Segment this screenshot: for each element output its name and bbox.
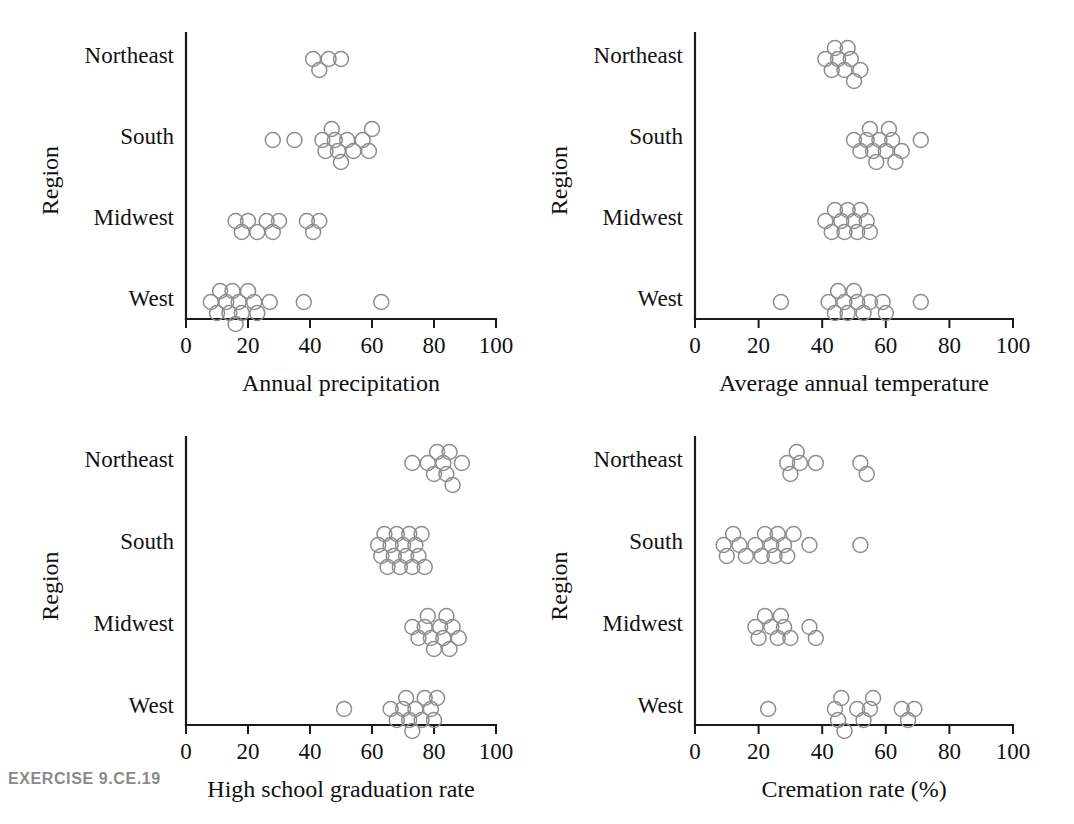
data-point	[773, 609, 788, 624]
x-tick-label: 100	[479, 333, 514, 358]
x-axis-title: High school graduation rate	[207, 776, 474, 802]
data-point	[451, 631, 466, 646]
data-point	[361, 144, 376, 159]
data-point	[802, 620, 817, 635]
data-point	[789, 445, 804, 460]
data-point	[859, 467, 874, 482]
y-axis-title: Region	[546, 146, 572, 215]
data-point	[808, 456, 823, 471]
x-tick-label: 100	[996, 739, 1031, 764]
panel-cremation-rate: 020406080100Cremation rate (%)RegionNort…	[510, 412, 1074, 792]
data-point	[334, 155, 349, 170]
data-point	[423, 702, 438, 717]
data-point	[847, 284, 862, 299]
y-axis-title: Region	[37, 146, 63, 215]
y-category-label: Midwest	[94, 205, 175, 230]
data-point	[853, 538, 868, 553]
data-point	[831, 284, 846, 299]
data-point	[241, 284, 256, 299]
data-point	[802, 538, 817, 553]
x-tick-label: 0	[180, 333, 192, 358]
data-point	[751, 631, 766, 646]
data-point	[306, 225, 321, 240]
data-point	[265, 225, 280, 240]
x-tick-label: 20	[747, 739, 770, 764]
y-category-label: Northeast	[85, 447, 175, 472]
data-point	[287, 133, 302, 148]
data-point	[913, 133, 928, 148]
data-point	[761, 702, 776, 717]
panel-high-school-graduation-rate: 020406080100High school graduation rateR…	[0, 412, 537, 792]
x-tick-label: 100	[996, 333, 1031, 358]
data-point	[405, 456, 420, 471]
panel-average-annual-temperature: 020406080100Average annual temperatureRe…	[510, 0, 1074, 412]
x-tick-label: 20	[237, 739, 260, 764]
data-point	[726, 527, 741, 542]
data-point	[296, 295, 311, 310]
x-tick-label: 80	[423, 739, 446, 764]
x-tick-label: 60	[361, 739, 384, 764]
data-point	[337, 702, 352, 717]
x-tick-label: 40	[811, 333, 834, 358]
exercise-caption: EXERCISE 9.CE.19	[8, 770, 161, 788]
x-axis-title: Annual precipitation	[242, 370, 440, 396]
data-point	[834, 691, 849, 706]
panel-annual-precipitation: 020406080100Annual precipitationRegionNo…	[0, 0, 537, 412]
data-point	[420, 609, 435, 624]
data-point	[234, 225, 249, 240]
x-tick-label: 40	[811, 739, 834, 764]
x-tick-label: 80	[938, 739, 961, 764]
data-point	[365, 122, 380, 137]
data-point	[847, 74, 862, 89]
y-category-label: South	[120, 124, 174, 149]
data-point	[374, 295, 389, 310]
x-tick-label: 40	[299, 739, 322, 764]
x-tick-label: 0	[689, 333, 701, 358]
y-category-label: South	[629, 529, 683, 554]
x-axis-title: Cremation rate (%)	[761, 776, 946, 802]
data-point	[888, 155, 903, 170]
x-tick-label: 80	[423, 333, 446, 358]
x-tick-label: 20	[237, 333, 260, 358]
data-point	[757, 609, 772, 624]
y-category-label: South	[120, 529, 174, 554]
x-tick-label: 60	[361, 333, 384, 358]
data-point	[439, 609, 454, 624]
y-category-label: Midwest	[603, 205, 684, 230]
y-category-label: Midwest	[603, 611, 684, 636]
data-point	[732, 538, 747, 553]
y-category-label: Northeast	[85, 43, 175, 68]
data-point	[786, 527, 801, 542]
data-point	[265, 133, 280, 148]
data-point	[436, 456, 451, 471]
data-point	[719, 549, 734, 564]
x-tick-label: 60	[874, 333, 897, 358]
data-point	[881, 122, 896, 137]
data-point	[324, 122, 339, 137]
data-point	[866, 691, 881, 706]
y-category-label: Northeast	[594, 447, 684, 472]
x-tick-label: 0	[180, 739, 192, 764]
plot-high-school-graduation-rate: 020406080100High school graduation rateR…	[0, 412, 537, 792]
y-category-label: South	[629, 124, 683, 149]
data-point	[827, 702, 842, 717]
data-point	[808, 631, 823, 646]
y-category-label: West	[129, 693, 175, 718]
plot-cremation-rate: 020406080100Cremation rate (%)RegionNort…	[510, 412, 1074, 792]
data-point	[306, 52, 321, 67]
data-point	[773, 295, 788, 310]
y-category-label: West	[638, 286, 684, 311]
x-tick-label: 80	[938, 333, 961, 358]
y-category-label: Midwest	[94, 611, 175, 636]
plot-average-annual-temperature: 020406080100Average annual temperatureRe…	[510, 0, 1074, 412]
x-tick-label: 100	[479, 739, 514, 764]
data-point	[445, 478, 460, 493]
data-point	[894, 144, 909, 159]
x-tick-label: 20	[747, 333, 770, 358]
data-point	[913, 295, 928, 310]
x-tick-label: 0	[689, 739, 701, 764]
data-point	[853, 63, 868, 78]
y-axis-title: Region	[37, 551, 63, 620]
y-axis-title: Region	[546, 551, 572, 620]
x-tick-label: 40	[299, 333, 322, 358]
